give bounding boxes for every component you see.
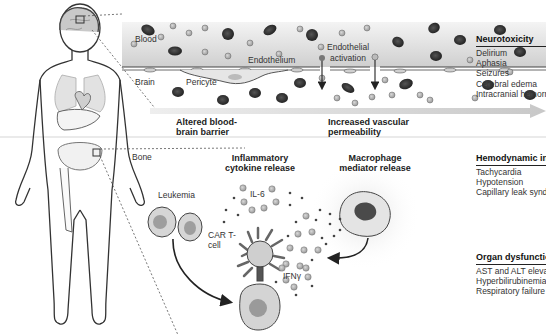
endothelial-activation-label-1: Endothelial (327, 42, 369, 52)
il6-label: IL-6 (250, 189, 265, 199)
list-item: Cerebral edema (476, 79, 546, 89)
car-t-cell-label-2: cell (208, 240, 221, 250)
list-item: Tachycardia (476, 167, 546, 177)
brain-label: Brain (135, 77, 155, 87)
list-item: Capillary leak syndrome (476, 187, 546, 197)
endothelial-activation-label-2: activation (330, 53, 366, 63)
cytokine-release-panel (148, 160, 420, 330)
progression-arrow (150, 104, 546, 118)
neurotoxicity-title: Neurotoxicity (476, 34, 546, 47)
list-item: Intracranial hemorrhage (476, 89, 546, 99)
macrophage-release-title-1: Macrophage (325, 153, 425, 163)
hemodynamic-section: Hemodynamic instability Tachycardia Hypo… (476, 153, 546, 198)
inflammatory-release-title-2: cytokine release (210, 163, 310, 173)
list-item: Hyperbilirubinemia (476, 276, 546, 286)
organ-dysfunction-title: Organ dysfunction (476, 252, 546, 265)
neurotoxicity-section: Neurotoxicity Delirium Aphasia Seizures … (476, 34, 546, 99)
vascular-permeability-caption-1: Increased vascular (328, 117, 409, 127)
list-item: Delirium (476, 48, 546, 58)
list-item: Aphasia (476, 58, 546, 68)
macrophage-release-title-2: mediator release (325, 163, 425, 173)
ifn-gamma-label: IFNγ (283, 271, 301, 281)
vascular-permeability-caption-2: permeability (328, 127, 381, 137)
endothelium-label: Endothelium (248, 55, 295, 65)
pericyte-label: Pericyte (186, 77, 217, 87)
inflammatory-release-title-1: Inflammatory (210, 153, 310, 163)
altered-bbb-caption-2: brain barrier (176, 127, 229, 137)
car-t-cell-label-1: CAR T- (208, 230, 236, 240)
blood-label: Blood (135, 34, 157, 44)
hemodynamic-title: Hemodynamic instability (476, 153, 546, 166)
list-item: AST and ALT elevation (476, 266, 546, 276)
organ-dysfunction-section: Organ dysfunction AST and ALT elevation … (476, 252, 546, 297)
list-item: Hypotension (476, 177, 546, 187)
list-item: Seizures (476, 68, 546, 78)
bone-label: Bone (132, 152, 152, 162)
altered-bbb-caption-1: Altered blood- (176, 117, 237, 127)
list-item: Respiratory failure (476, 286, 546, 296)
leukemia-label: Leukemia (158, 190, 195, 200)
